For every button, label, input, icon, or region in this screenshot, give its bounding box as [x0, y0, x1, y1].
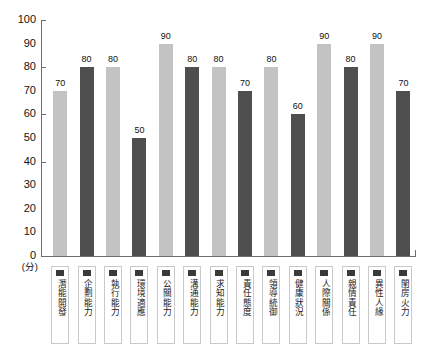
bar	[212, 67, 226, 256]
category-label-text: 閨房火力	[399, 279, 408, 317]
category-label-text: 人際關係	[320, 279, 329, 317]
bar-value-label: 70	[232, 79, 258, 88]
category-label-text: 企劃能力	[82, 279, 91, 317]
bar-value-label: 70	[47, 79, 73, 88]
bar	[238, 91, 252, 256]
category-label-text: 領導統御	[267, 279, 276, 317]
bar-value-label: 80	[206, 55, 232, 64]
category-label-text: 健康狀況	[293, 279, 302, 317]
category-label-box: 執行能力	[104, 266, 122, 344]
bar-value-label: 60	[285, 102, 311, 111]
category-label-box: 企劃能力	[78, 266, 96, 344]
bar	[132, 138, 146, 256]
bar-value-label: 80	[100, 55, 126, 64]
category-label-box: 溝通能力	[183, 266, 201, 344]
bar	[80, 67, 94, 256]
category-label-box: 求知能力	[210, 266, 228, 344]
category-label-box: 人際關係	[315, 266, 333, 344]
category-label-text: 執行能力	[108, 279, 117, 317]
category-label-box: 親情責任	[342, 266, 360, 344]
category-label-box: 健康狀況	[289, 266, 307, 344]
category-label-text: 責任態度	[240, 279, 249, 317]
bar	[344, 67, 358, 256]
legend-swatch-icon	[215, 270, 223, 276]
category-label-box: 公關能力	[157, 266, 175, 344]
category-label-text: 親情責任	[346, 279, 355, 317]
legend-swatch-icon	[56, 270, 64, 276]
legend-swatch-icon	[241, 270, 249, 276]
bar	[159, 44, 173, 256]
category-label-box: 責任態度	[236, 266, 254, 344]
legend-swatch-icon	[347, 270, 355, 276]
legend-swatch-icon	[320, 270, 328, 276]
bar	[106, 67, 120, 256]
legend-swatch-icon	[83, 270, 91, 276]
bar	[185, 67, 199, 256]
category-label-text: 異性人緣	[372, 279, 381, 317]
bar-chart: 0102030405060708090100 (分) 7080805090808…	[0, 0, 436, 347]
bar	[264, 67, 278, 256]
category-label-box: 環境適應	[130, 266, 148, 344]
bar-value-label: 90	[364, 32, 390, 41]
category-label-box: 閨房火力	[394, 266, 412, 344]
bar-value-label: 90	[311, 32, 337, 41]
bar-value-label: 70	[390, 79, 416, 88]
bar-value-label: 90	[153, 32, 179, 41]
bar-value-label: 50	[126, 126, 152, 135]
category-label-box: 異性人緣	[368, 266, 386, 344]
bar	[317, 44, 331, 256]
category-label-text: 求知能力	[214, 279, 223, 317]
bar-value-label: 80	[179, 55, 205, 64]
bar-value-label: 80	[338, 55, 364, 64]
bar-value-label: 80	[74, 55, 100, 64]
legend-swatch-icon	[109, 270, 117, 276]
bar-value-label: 80	[258, 55, 284, 64]
category-label-text: 溝通能力	[188, 279, 197, 317]
legend-swatch-icon	[294, 270, 302, 276]
legend-swatch-icon	[162, 270, 170, 276]
legend-swatch-icon	[188, 270, 196, 276]
category-label-text: 潛能開發	[56, 279, 65, 317]
bar	[291, 114, 305, 256]
bar	[396, 91, 410, 256]
category-label-box: 領導統御	[262, 266, 280, 344]
legend-swatch-icon	[267, 270, 275, 276]
bar	[53, 91, 67, 256]
legend-swatch-icon	[135, 270, 143, 276]
legend-swatch-icon	[373, 270, 381, 276]
category-label-text: 環境適應	[135, 279, 144, 317]
category-label-text: 公關能力	[161, 279, 170, 317]
bar	[370, 44, 384, 256]
legend-swatch-icon	[399, 270, 407, 276]
category-label-box: 潛能開發	[51, 266, 69, 344]
